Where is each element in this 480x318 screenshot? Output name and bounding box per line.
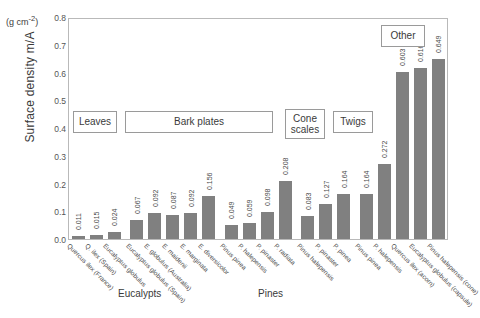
bar-value-label: 0.092 — [152, 190, 159, 208]
taxon-group-pines: Pines — [258, 288, 283, 299]
bar-item[interactable]: 0.272 — [375, 19, 393, 239]
taxon-group-eucalypts: Eucalypts — [118, 288, 161, 299]
x-axis-labels: Quercus ilex (France)Q. ilex (Spain)Euca… — [68, 242, 448, 318]
bar-value-label: 0.092 — [188, 190, 195, 208]
bar-value-label: 0.098 — [264, 188, 271, 206]
bar-value-label: 0.649 — [435, 35, 442, 53]
group-box-bark-plates: Bark plates — [125, 111, 273, 133]
group-box-leaves: Leaves — [73, 111, 117, 133]
bar[interactable] — [72, 236, 85, 239]
bar-value-label: 0.083 — [305, 192, 312, 210]
group-box-cone-scales: Cone scales — [285, 109, 325, 139]
bar[interactable] — [243, 223, 256, 239]
y-tick-label: 0.6 — [40, 69, 66, 79]
bar-value-label: 0.011 — [75, 213, 82, 230]
bar[interactable] — [319, 204, 332, 239]
bar-value-label: 0.164 — [341, 170, 348, 188]
bar-value-label: 0.156 — [206, 172, 213, 190]
bar[interactable] — [166, 215, 179, 239]
bar-value-label: 0.208 — [282, 158, 289, 176]
bar[interactable] — [378, 164, 391, 239]
plot-area: 0.0110.0150.0240.0670.0920.0870.0920.156… — [68, 18, 448, 240]
bar-value-label: 0.087 — [170, 191, 177, 209]
bar[interactable] — [432, 59, 445, 239]
bar-value-label: 0.164 — [363, 170, 370, 188]
bar[interactable] — [396, 72, 409, 239]
bar[interactable] — [148, 213, 161, 239]
bar-value-label: 0.024 — [111, 209, 118, 227]
bar[interactable] — [225, 225, 238, 239]
y-tick-label: 0.7 — [40, 41, 66, 51]
bar-value-label: 0.059 — [246, 199, 253, 217]
bar-value-label: 0.015 — [93, 211, 100, 229]
group-box-twigs: Twigs — [333, 111, 373, 133]
bar[interactable] — [184, 213, 197, 239]
bar[interactable] — [108, 232, 121, 239]
bar[interactable] — [337, 194, 350, 240]
y-tick-label: 0.0 — [40, 235, 66, 245]
bar-item[interactable]: 0.649 — [429, 19, 447, 239]
bar-item[interactable]: 0.616 — [411, 19, 429, 239]
bar[interactable] — [261, 212, 274, 239]
bar-value-label: 0.272 — [381, 140, 388, 158]
bar[interactable] — [279, 181, 292, 239]
bar[interactable] — [202, 196, 215, 239]
bar-value-label: 0.616 — [417, 45, 424, 63]
bar-value-label: 0.603 — [399, 48, 406, 66]
bar-value-label: 0.067 — [134, 197, 141, 215]
bar-value-label: 0.049 — [228, 202, 235, 220]
group-box-other: Other — [381, 25, 425, 47]
y-tick-label: 0.5 — [40, 96, 66, 106]
y-axis-title: Surface density m/A — [23, 0, 37, 187]
y-axis-ticks: 0.80.70.60.50.40.30.20.10.0 — [38, 0, 66, 318]
y-tick-label: 0.8 — [40, 13, 66, 23]
bar[interactable] — [360, 194, 373, 240]
y-tick-label: 0.4 — [40, 124, 66, 134]
bar-item[interactable]: 0.603 — [393, 19, 411, 239]
y-tick-label: 0.3 — [40, 152, 66, 162]
bar-value-label: 0.127 — [323, 180, 330, 198]
bar[interactable] — [90, 235, 103, 239]
bar[interactable] — [130, 220, 143, 239]
bar[interactable] — [301, 216, 314, 239]
y-tick-label: 0.1 — [40, 207, 66, 217]
bar[interactable] — [414, 68, 427, 239]
y-tick-label: 0.2 — [40, 180, 66, 190]
